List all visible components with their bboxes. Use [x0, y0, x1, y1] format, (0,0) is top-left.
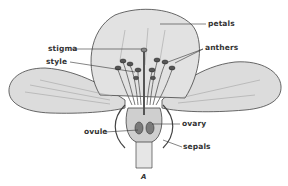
stem: [136, 140, 152, 168]
figure-caption: A: [141, 173, 146, 181]
label-stigma: stigma: [48, 45, 77, 53]
label-ovary: ovary: [182, 120, 206, 128]
flower-diagram: petals stigma anthers style ovule ovary …: [0, 0, 288, 186]
flower-illustration: [0, 0, 288, 186]
label-ovule: ovule: [84, 128, 108, 136]
label-style: style: [46, 58, 67, 66]
stigma: [141, 48, 147, 52]
back-petal: [91, 9, 199, 98]
label-petals: petals: [208, 20, 235, 28]
label-sepals: sepals: [183, 143, 211, 151]
ovule-left: [135, 122, 143, 134]
label-anthers: anthers: [205, 44, 238, 52]
left-sepal: [115, 105, 125, 148]
